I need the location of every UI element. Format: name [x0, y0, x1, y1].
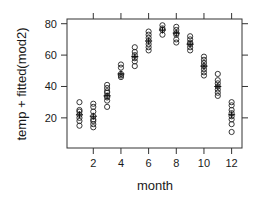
x-tick-label: 8	[173, 157, 179, 169]
x-tick-label: 12	[225, 157, 237, 169]
observed-point	[174, 40, 179, 45]
observed-point	[215, 93, 220, 98]
observed-point	[118, 65, 123, 70]
x-tick-label: 2	[90, 157, 96, 169]
observed-point	[91, 125, 96, 130]
observed-point	[188, 48, 193, 53]
observed-point	[105, 104, 110, 109]
data-points	[76, 23, 235, 135]
observed-point	[201, 73, 206, 78]
scatter-plot: 24681012 20406080 month temp + fitted(mo…	[0, 0, 261, 199]
x-tick-label: 10	[198, 157, 210, 169]
observed-point	[229, 129, 234, 134]
observed-point	[77, 100, 82, 105]
y-tick-label: 80	[45, 18, 57, 30]
y-axis-label: temp + fitted(mod2)	[14, 27, 29, 140]
x-tick-label: 4	[118, 157, 124, 169]
observed-point	[215, 71, 220, 76]
y-tick-label: 60	[45, 49, 57, 61]
plot-frame	[67, 19, 242, 148]
y-tick-label: 40	[45, 80, 57, 92]
x-axis-label: month	[137, 178, 173, 193]
x-tick-label: 6	[146, 157, 152, 169]
observed-point	[146, 48, 151, 53]
y-tick-label: 20	[45, 112, 57, 124]
